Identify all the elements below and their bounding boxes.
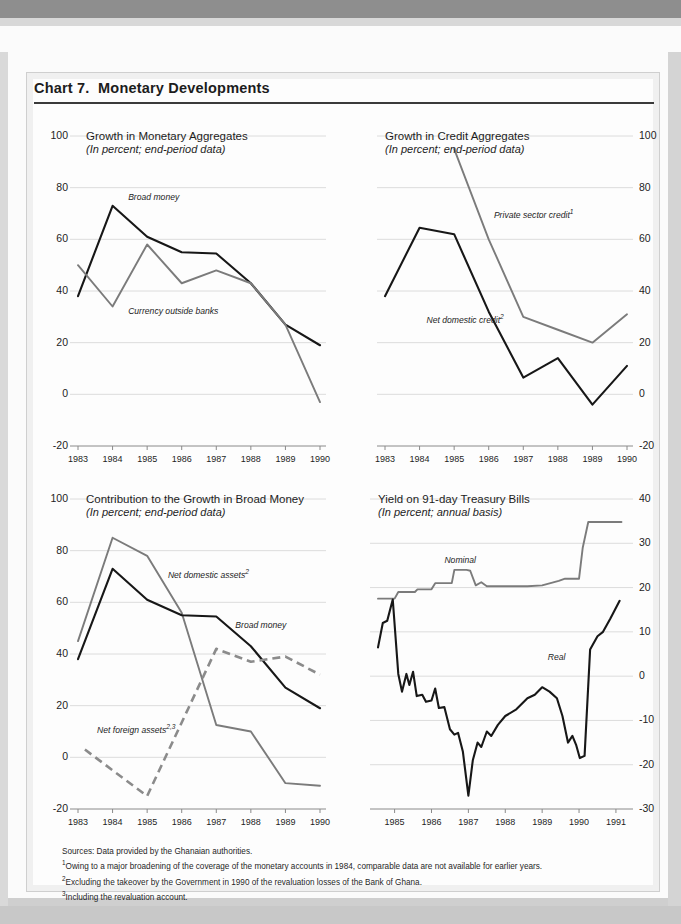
y-tick-label: 0: [639, 669, 679, 681]
page-edge-bottom: [0, 906, 681, 924]
footnote-source: Sources: Data provided by the Ghanaian a…: [62, 846, 622, 857]
y-tick-label: -10: [639, 713, 679, 725]
footnote-3: 3Including the revaluation account.: [62, 888, 622, 903]
x-tick-label: 1987: [448, 817, 488, 827]
x-tick-label: 1991: [596, 817, 636, 827]
footnotes-block: Sources: Data provided by the Ghanaian a…: [62, 846, 622, 903]
page-sheet: Chart 7. Monetary Developments Growth in…: [0, 26, 681, 898]
series-label-text: Nominal: [444, 555, 476, 565]
x-tick-label: 1989: [522, 817, 562, 827]
footnote-2-text: Excluding the takeover by the Government…: [66, 877, 422, 886]
scan-edge-top: [0, 0, 681, 18]
series-line-real: [378, 600, 620, 796]
series-label-text: Real: [548, 652, 566, 662]
footnote-1-text: Owing to a major broadening of the cover…: [66, 862, 543, 871]
series-label-nominal: Nominal: [444, 555, 476, 565]
x-tick-label: 1985: [375, 817, 415, 827]
footnote-3-text: Including the revaluation account.: [66, 892, 188, 901]
x-tick-label: 1988: [485, 817, 525, 827]
x-tick-label: 1990: [559, 817, 599, 827]
series-label-real: Real: [548, 652, 566, 662]
y-tick-label: 10: [639, 625, 679, 637]
y-tick-label: -20: [639, 758, 679, 770]
x-tick-label: 1986: [411, 817, 451, 827]
plot-treasury-bill-yield: [0, 26, 681, 898]
panel-title-treasury-bill-yield: Yield on 91-day Treasury Bills: [378, 493, 530, 505]
footnote-1: 1Owing to a major broadening of the cove…: [62, 857, 622, 872]
y-tick-label: -30: [639, 802, 679, 814]
y-tick-label: 30: [639, 536, 679, 548]
y-tick-label: 20: [639, 581, 679, 593]
y-tick-label: 40: [639, 492, 679, 504]
footnote-2: 2Excluding the takeover by the Governmen…: [62, 873, 622, 888]
panel-subtitle-treasury-bill-yield: (In percent; annual basis): [378, 506, 502, 518]
